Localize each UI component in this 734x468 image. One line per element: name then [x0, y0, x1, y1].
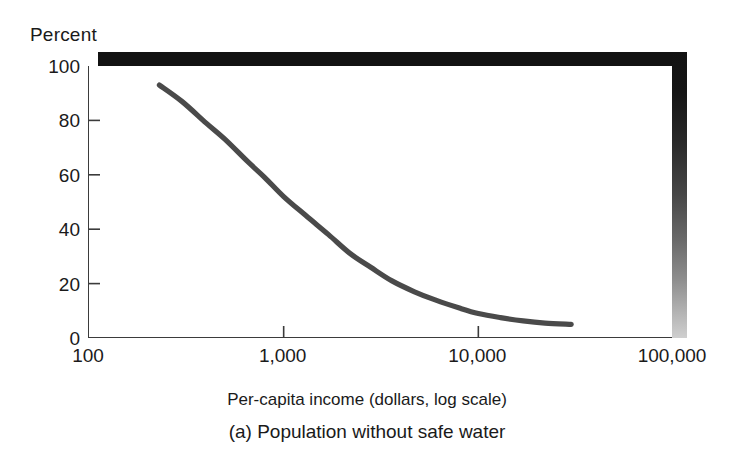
x-tick-label: 10,000 [448, 345, 506, 367]
plot-shadow-top [98, 52, 682, 67]
x-axis-ticks [284, 326, 479, 338]
chart-canvas [89, 66, 673, 338]
figure-caption: (a) Population without safe water [0, 420, 734, 443]
x-tick-label: 100,000 [638, 345, 707, 367]
plot-area [88, 66, 672, 338]
y-tick-label: 60 [0, 166, 80, 185]
y-tick-label: 40 [0, 220, 80, 239]
x-tick-label: 1,000 [259, 345, 307, 367]
y-tick-label: 80 [0, 111, 80, 130]
data-series-line [159, 85, 571, 324]
y-tick-label: 20 [0, 275, 80, 294]
y-axis-ticks [89, 120, 100, 283]
plot-shadow-right [672, 52, 687, 338]
x-axis-title: Per-capita income (dollars, log scale) [0, 390, 734, 410]
figure-population-without-safe-water: Percent 020406080100 1001,00010,000100,0… [0, 0, 734, 468]
x-tick-label: 100 [72, 345, 104, 367]
x-axis-tick-labels: 1001,00010,000100,000 [0, 345, 734, 371]
y-tick-label: 100 [0, 57, 80, 76]
